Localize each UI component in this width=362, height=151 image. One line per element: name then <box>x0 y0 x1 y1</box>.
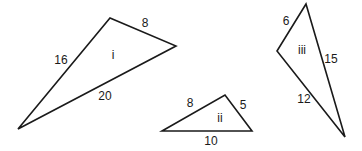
triangle-i-side-20-label: 20 <box>98 90 111 102</box>
triangles-svg <box>0 0 362 151</box>
triangle-i <box>18 18 176 129</box>
triangle-iii-side-6-label: 6 <box>283 15 290 27</box>
triangle-i-side-16-label: 16 <box>54 54 67 66</box>
triangle-ii-side-5-label: 5 <box>240 99 247 111</box>
triangle-ii-name-label: ii <box>217 112 222 124</box>
triangle-iii-name-label: iii <box>298 44 306 56</box>
triangle-i-side-8-label: 8 <box>142 17 149 29</box>
triangle-iii-side-15-label: 15 <box>324 53 337 65</box>
triangle-ii-side-10-label: 10 <box>204 135 217 147</box>
triangle-iii-side-12-label: 12 <box>297 93 310 105</box>
triangle-ii-side-8-label: 8 <box>187 97 194 109</box>
triangles-diagram: 16 8 20 i 8 5 10 ii 6 12 15 iii <box>0 0 362 151</box>
triangle-ii <box>162 95 252 131</box>
triangle-i-name-label: i <box>112 49 115 61</box>
